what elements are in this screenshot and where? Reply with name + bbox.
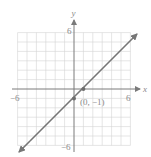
coordinate-plane: x y −6 6 6 −6 (0, −1) bbox=[0, 0, 151, 157]
x-min-tick-label: −6 bbox=[10, 93, 20, 103]
y-min-tick-label: −6 bbox=[61, 142, 71, 152]
x-max-tick-label: 6 bbox=[126, 93, 131, 103]
y-intercept-label: (0, −1) bbox=[80, 97, 105, 107]
y-axis-label: y bbox=[71, 8, 76, 18]
graph-line bbox=[19, 141, 30, 152]
y-max-tick-label: 6 bbox=[67, 26, 72, 36]
x-axis-label: x bbox=[142, 84, 147, 94]
y-intercept-point bbox=[72, 96, 76, 100]
x-intercept-point bbox=[81, 87, 85, 91]
